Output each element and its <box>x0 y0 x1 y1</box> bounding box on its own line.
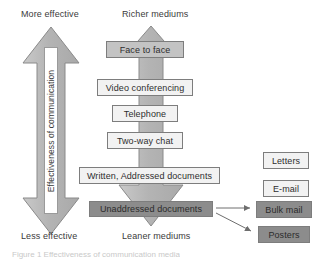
medium-box-written-addressed-documents[interactable]: Written, Addressed documents <box>79 167 220 184</box>
example-box-posters[interactable]: Posters <box>258 226 310 243</box>
example-box-email[interactable]: E-mail <box>263 180 309 197</box>
medium-box-telephone[interactable]: Telephone <box>112 105 178 122</box>
figure-caption: Figure 1 Effectiveness of communication … <box>12 250 180 260</box>
medium-box-unaddressed-documents[interactable]: Unaddressed documents <box>89 201 213 217</box>
label-richer-mediums: Richer mediums <box>122 9 188 19</box>
label-more-effective: More effective <box>21 9 79 19</box>
medium-box-two-way-chat[interactable]: Two-way chat <box>107 132 183 149</box>
connector-posters <box>216 213 251 231</box>
label-leaner-mediums: Leaner mediums <box>122 231 190 241</box>
effectiveness-label-box: Effectiveness of communication <box>44 47 58 214</box>
medium-box-face-to-face[interactable]: Face to face <box>106 41 184 58</box>
example-box-bulk-mail[interactable]: Bulk mail <box>256 201 312 218</box>
medium-box-video-conferencing[interactable]: Video conferencing <box>97 79 193 96</box>
label-less-effective: Less effective <box>21 231 77 241</box>
effectiveness-label-text: Effectiveness of communication <box>46 69 56 191</box>
example-box-letters[interactable]: Letters <box>263 152 309 169</box>
